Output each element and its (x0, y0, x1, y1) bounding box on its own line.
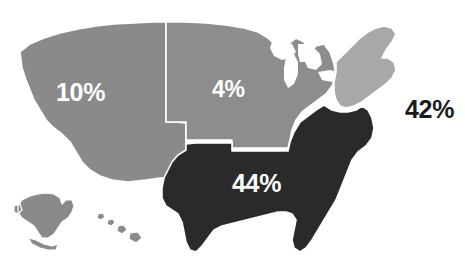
us-map-graphic (0, 0, 465, 260)
us-regional-percentage-map: 10% 4% 44% 42% (0, 0, 465, 260)
map-region-northeast[interactable] (334, 26, 396, 108)
michigan-mitten-gap (298, 44, 308, 62)
map-inset-alaska[interactable] (14, 193, 74, 250)
region-label-northeast: 42% (405, 97, 454, 122)
map-inset-hawaii[interactable] (97, 213, 142, 243)
region-label-west: 10% (56, 80, 105, 105)
region-label-midwest: 4% (212, 78, 245, 101)
region-label-south: 44% (232, 171, 281, 196)
